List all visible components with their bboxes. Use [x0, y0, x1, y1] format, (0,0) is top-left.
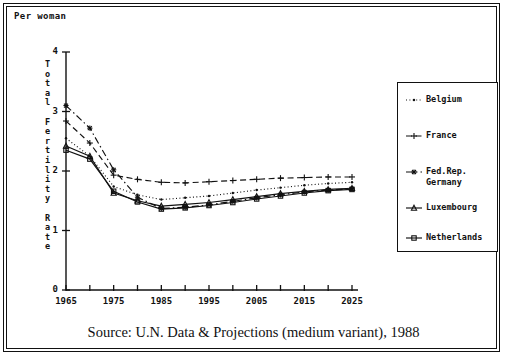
data-point-marker: [184, 197, 186, 199]
legend-item-label: France: [426, 130, 457, 141]
y-axis-tick-label: 0: [44, 284, 58, 294]
y-axis-tick-label: 4: [44, 46, 58, 56]
x-axis-tick-label: 1995: [189, 296, 229, 306]
data-point-marker: [208, 195, 210, 197]
legend-item[interactable]: Belgium: [404, 93, 499, 119]
data-point-marker: [279, 186, 281, 188]
legend-item-label: Netherlands: [426, 232, 482, 243]
legend-marker-belgium-icon: [404, 93, 424, 107]
data-point-marker: [327, 182, 329, 184]
x-axis-tick-label: 1975: [94, 296, 134, 306]
legend-item-label: Luxembourg: [426, 202, 477, 213]
series-luxembourg: [63, 143, 354, 208]
y-axis-tick-label: 3: [44, 106, 58, 116]
legend-item[interactable]: Luxembourg: [404, 201, 499, 227]
legend-item-label: Belgium: [426, 94, 462, 105]
series-france: [63, 118, 355, 186]
y-axis-tick-label: 1: [44, 225, 58, 235]
series-line: [66, 121, 352, 183]
figure-caption: Source: U.N. Data & Projections (medium …: [0, 324, 507, 341]
legend-marker-netherlands-icon: [404, 231, 424, 245]
data-point-marker: [232, 192, 234, 194]
data-point-marker: [112, 185, 114, 187]
legend-marker-france-icon: [404, 129, 424, 143]
data-point-marker: [413, 99, 415, 101]
legend-item-label: Fed.Rep. Germany: [426, 166, 467, 187]
data-point-marker: [65, 137, 67, 139]
y-axis-tick-label: 2: [44, 165, 58, 175]
data-point-marker: [160, 198, 162, 200]
x-axis-tick-label: 2025: [332, 296, 372, 306]
x-axis-tick-label: 2015: [284, 296, 324, 306]
legend-item[interactable]: France: [404, 129, 499, 155]
data-point-marker: [303, 184, 305, 186]
data-point-marker: [255, 189, 257, 191]
data-point-marker: [351, 181, 353, 183]
x-axis-tick-label: 1985: [141, 296, 181, 306]
legend-marker-luxembourg-icon: [404, 201, 424, 215]
x-axis-tick-label: 1965: [46, 296, 86, 306]
legend-item[interactable]: Fed.Rep. Germany: [404, 165, 499, 191]
legend-marker-fed-rep-germany-icon: [404, 165, 424, 179]
chart-legend: BelgiumFranceFed.Rep. GermanyLuxembourgN…: [397, 82, 498, 252]
legend-item[interactable]: Netherlands: [404, 231, 499, 257]
x-axis-tick-label: 2005: [237, 296, 277, 306]
